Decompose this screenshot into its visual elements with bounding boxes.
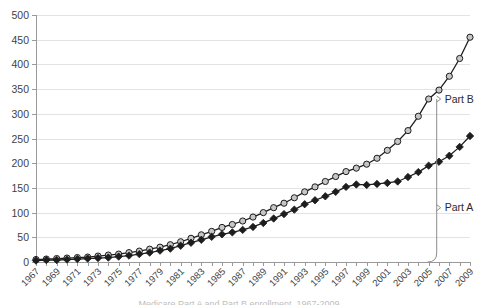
- x-axis-tick-label: 1973: [81, 266, 104, 289]
- callout-arrow-icon: [437, 96, 441, 102]
- y-axis-tick-label: 500: [11, 9, 29, 21]
- figure-caption-sliver: Medicare Part A and Part B enrollment, 1…: [0, 299, 478, 305]
- data-point-marker: [260, 210, 266, 216]
- x-axis-tick-label: 1999: [349, 266, 372, 289]
- data-point-marker: [271, 205, 277, 211]
- data-point-marker: [384, 147, 390, 153]
- data-point-marker: [219, 224, 225, 230]
- y-axis-tick-label: 400: [11, 58, 29, 70]
- data-point-marker: [240, 218, 246, 224]
- data-point-marker: [208, 233, 215, 240]
- data-point-marker: [394, 178, 401, 185]
- data-point-marker: [311, 197, 318, 204]
- x-axis-tick-label: 2009: [453, 266, 476, 289]
- x-axis-tick-label: 1991: [267, 266, 290, 289]
- x-axis-tick-label: 2007: [432, 266, 455, 289]
- data-point-marker: [312, 184, 318, 190]
- data-point-marker: [302, 189, 308, 195]
- x-axis-tick-label: 1977: [122, 266, 145, 289]
- data-point-marker: [353, 181, 360, 188]
- chart-container: 0501001502002503003504004505001967196919…: [0, 0, 478, 305]
- x-axis-tick-label: 1983: [184, 266, 207, 289]
- data-point-marker: [229, 221, 235, 227]
- data-point-marker: [426, 96, 432, 102]
- data-point-marker: [405, 128, 411, 134]
- x-axis-tick-label: 1993: [287, 266, 310, 289]
- data-point-marker: [374, 155, 380, 161]
- data-point-marker: [457, 55, 463, 61]
- series-line: [36, 136, 470, 260]
- annotation-label-part-a: Part A: [445, 201, 474, 213]
- data-point-marker: [218, 231, 225, 238]
- data-point-marker: [322, 178, 328, 184]
- data-point-marker: [322, 193, 329, 200]
- x-axis-tick-label: 1981: [163, 266, 186, 289]
- y-axis-tick-label: 50: [17, 231, 29, 243]
- data-point-marker: [415, 113, 421, 119]
- data-point-marker: [363, 181, 370, 188]
- data-point-marker: [291, 195, 297, 201]
- x-axis-tick-label: 2003: [391, 266, 414, 289]
- y-axis-tick-label: 300: [11, 108, 29, 120]
- data-point-marker: [373, 180, 380, 187]
- data-point-marker: [239, 226, 246, 233]
- x-axis-tick-label: 1997: [329, 266, 352, 289]
- data-point-marker: [332, 188, 339, 195]
- x-axis-tick-label: 2005: [411, 266, 434, 289]
- y-axis-tick-label: 100: [11, 207, 29, 219]
- data-point-marker: [281, 200, 287, 206]
- data-point-marker: [467, 34, 473, 40]
- x-axis-tick-label: 1967: [19, 266, 42, 289]
- y-axis-tick-label: 150: [11, 182, 29, 194]
- y-axis-tick-label: 250: [11, 133, 29, 145]
- data-point-marker: [291, 206, 298, 213]
- data-point-marker: [364, 161, 370, 167]
- data-point-marker: [229, 229, 236, 236]
- data-point-marker: [342, 183, 349, 190]
- line-chart: 0501001502002503003504004505001967196919…: [0, 0, 478, 305]
- x-axis-tick-label: 1987: [225, 266, 248, 289]
- data-point-marker: [333, 173, 339, 179]
- x-axis-tick-label: 1971: [60, 266, 83, 289]
- data-point-marker: [260, 219, 267, 226]
- y-axis-tick-label: 350: [11, 83, 29, 95]
- data-point-marker: [436, 87, 442, 93]
- data-point-marker: [249, 223, 256, 230]
- data-point-marker: [301, 201, 308, 208]
- x-axis-tick-label: 1975: [101, 266, 124, 289]
- data-point-marker: [415, 168, 422, 175]
- data-point-marker: [395, 138, 401, 144]
- data-point-marker: [250, 214, 256, 220]
- data-point-marker: [384, 179, 391, 186]
- series-part-a: [32, 132, 473, 264]
- x-axis-tick-label: 1979: [143, 266, 166, 289]
- x-axis-tick-label: 1995: [308, 266, 331, 289]
- x-axis-tick-label: 1985: [205, 266, 228, 289]
- y-axis-tick-label: 0: [23, 256, 29, 268]
- data-point-marker: [280, 210, 287, 217]
- x-axis-tick-label: 1989: [246, 266, 269, 289]
- data-point-marker: [343, 169, 349, 175]
- data-point-marker: [353, 165, 359, 171]
- data-point-marker: [404, 173, 411, 180]
- y-axis-tick-label: 200: [11, 157, 29, 169]
- data-point-marker: [270, 215, 277, 222]
- y-axis-tick-label: 450: [11, 34, 29, 46]
- annotation-label-part-b: Part B: [445, 93, 474, 105]
- callout-arrow-icon: [437, 205, 441, 211]
- x-axis-tick-label: 2001: [370, 266, 393, 289]
- data-point-marker: [446, 73, 452, 79]
- x-axis-tick-label: 1969: [39, 266, 62, 289]
